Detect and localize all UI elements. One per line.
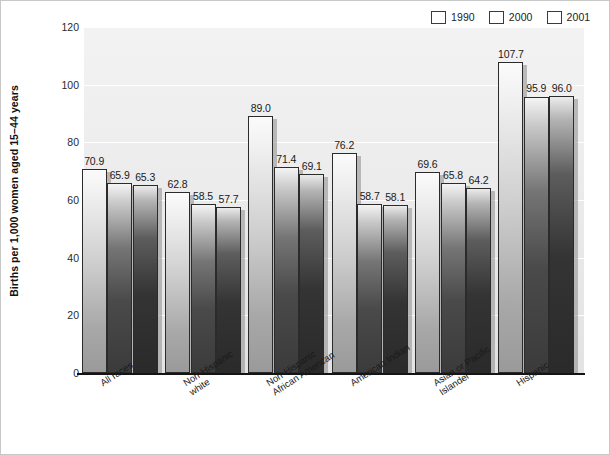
gridline: [84, 27, 584, 28]
bar-value-label: 69.1: [296, 160, 328, 172]
bar-2000-all-races[interactable]: [107, 183, 132, 373]
y-axis-ticks: 020406080100120: [41, 1, 79, 455]
bar-1990-american-indian[interactable]: [332, 153, 357, 373]
bar-1990-all-races[interactable]: [82, 169, 107, 373]
y-tick-label: 60: [45, 194, 79, 206]
bar-value-label: 96.0: [546, 82, 578, 94]
x-axis-line: [77, 373, 585, 375]
bar-2000-american-indian[interactable]: [357, 204, 382, 373]
bar-1990-non-hispanic-white[interactable]: [165, 192, 190, 373]
bar-2000-hispanic[interactable]: [524, 97, 549, 374]
bar-value-label: 89.0: [245, 102, 277, 114]
bar-value-label: 64.2: [463, 174, 495, 186]
bar-chart-figure: 1990 2000 2001 Births per 1,000 women ag…: [0, 0, 610, 455]
y-tick-label: 20: [45, 309, 79, 321]
bar-value-label: 65.3: [129, 171, 161, 183]
y-axis-title: Births per 1,000 women aged 15–44 years: [3, 1, 25, 381]
legend-label-2001: 2001: [567, 11, 591, 23]
bar-2000-asian-or-pacific-islander[interactable]: [441, 183, 466, 373]
legend-swatch-2000-icon: [489, 11, 504, 24]
y-tick-label: 80: [45, 136, 79, 148]
plot-area: [84, 27, 584, 373]
bar-value-label: 70.9: [78, 155, 110, 167]
y-tick-label: 40: [45, 252, 79, 264]
y-tick-label: 100: [45, 79, 79, 91]
bar-value-label: 58.1: [379, 191, 411, 203]
bar-value-label: 57.7: [213, 193, 245, 205]
legend-label-2000: 2000: [509, 11, 533, 23]
bar-1990-asian-or-pacific-islander[interactable]: [415, 172, 440, 373]
bar-2000-non-hispanic-white[interactable]: [191, 204, 216, 373]
bar-value-label: 62.8: [162, 178, 194, 190]
legend-swatch-1990-icon: [431, 11, 446, 24]
bar-2000-non-hispanic-african-american[interactable]: [274, 167, 299, 373]
chart-legend: 1990 2000 2001: [431, 9, 590, 25]
legend-entry-1990: 1990: [431, 11, 475, 24]
bar-2001-hispanic[interactable]: [549, 96, 574, 373]
bar-2001-all-races[interactable]: [133, 185, 158, 373]
legend-swatch-2001-icon: [547, 11, 562, 24]
legend-entry-2001: 2001: [547, 11, 591, 24]
y-tick-label: 0: [45, 367, 79, 379]
legend-entry-2000: 2000: [489, 11, 533, 24]
bar-1990-hispanic[interactable]: [498, 62, 523, 373]
bar-value-label: 107.7: [495, 48, 527, 60]
bar-value-label: 76.2: [328, 139, 360, 151]
y-axis-title-text: Births per 1,000 women aged 15–44 years: [8, 85, 20, 297]
y-tick-label: 120: [45, 21, 79, 33]
legend-label-1990: 1990: [451, 11, 475, 23]
